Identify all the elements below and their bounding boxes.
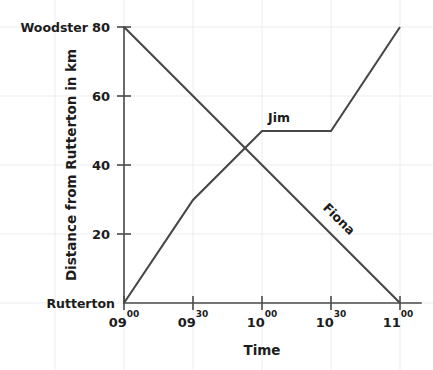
y-tick-label-80: 80	[92, 20, 110, 35]
y-tick-label-20: 20	[92, 227, 110, 242]
y-tick-label-60: 60	[92, 89, 110, 104]
y-axis-origin-label: Rutterton	[46, 296, 115, 311]
y-tick-label-40: 40	[92, 158, 110, 173]
y-axis-title: Distance from Rutterton in km	[63, 49, 79, 281]
distance-time-graph: 80 60 40 20 Woodster Rutterton 0900 0930…	[0, 0, 433, 370]
series-label-jim: Jim	[267, 110, 290, 125]
y-axis-top-label: Woodster	[20, 20, 88, 35]
x-axis-title: Time	[243, 342, 280, 358]
chart-canvas: 80 60 40 20 Woodster Rutterton 0900 0930…	[0, 0, 433, 370]
